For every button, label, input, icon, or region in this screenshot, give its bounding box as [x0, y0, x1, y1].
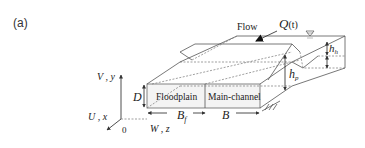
discharge-label: Q(t)	[279, 16, 298, 31]
depth-label: D	[132, 90, 142, 104]
total-width-label: B	[222, 108, 230, 122]
discharge-arg: (t)	[288, 19, 297, 31]
bankfull-depth-label: hp	[289, 67, 299, 82]
hp-sub: p	[294, 74, 299, 82]
vertical-axis-label: V , y	[97, 71, 115, 82]
panel-label: (a)	[13, 16, 28, 30]
floodplain-label: Floodplain	[156, 92, 197, 102]
floodplain-width-label: Bf	[177, 108, 188, 124]
compound-channel-diagram: (a)	[0, 0, 365, 148]
water-surface-triangle-icon	[306, 31, 314, 38]
streamwise-axis-label: U , x	[88, 111, 108, 122]
bed-hatch	[262, 101, 280, 111]
x-axis	[107, 119, 121, 130]
overbank-depth-label: hh	[329, 42, 339, 56]
origin-label: 0	[122, 125, 127, 135]
bf-sub: f	[184, 115, 188, 124]
main-channel-label: Main-channel	[208, 92, 261, 102]
transverse-axis-label: W , z	[150, 123, 170, 134]
flow-label: Flow	[237, 21, 258, 32]
hh-sub: h	[335, 48, 339, 56]
